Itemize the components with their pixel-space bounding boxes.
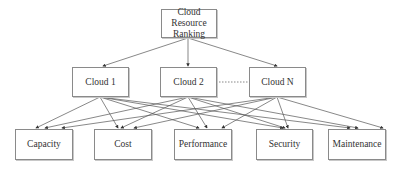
criterion-performance: Performance [174,129,232,160]
root-node: Cloud Resource Ranking [161,9,217,38]
root-label-line1: Cloud Resource [171,7,206,28]
criterion-label: Performance [179,139,228,150]
edge-root-cloudN [188,38,277,66]
root-label: Cloud Resource Ranking [162,7,216,40]
cloud-node-n: Cloud N [249,67,306,97]
cloud-node-label: Cloud N [261,77,293,88]
root-label-line2: Ranking [173,29,205,39]
criterion-label: Cost [114,139,131,150]
cloud-node-1: Cloud 1 [72,67,129,97]
criterion-capacity: Capacity [15,129,73,160]
criterion-security: Security [256,129,313,160]
criterion-maintenance: Maintenance [328,129,386,160]
criterion-label: Capacity [27,139,61,150]
criterion-cost: Cost [94,129,152,160]
criterion-label: Maintenance [332,139,381,150]
edge-root-cloud1 [103,38,188,66]
cloud-node-label: Cloud 1 [85,77,115,88]
criterion-label: Security [269,139,301,150]
cloud-node-2: Cloud 2 [160,67,217,97]
cloud-node-label: Cloud 2 [173,77,203,88]
